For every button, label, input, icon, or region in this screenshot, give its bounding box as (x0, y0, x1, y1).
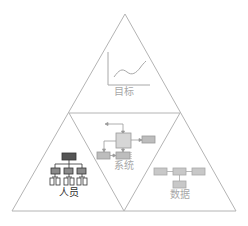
system-block-diagram-icon (97, 123, 155, 160)
section-label-middle: 系统 (114, 159, 134, 171)
data-flow-icon (154, 168, 205, 188)
section-label-left: 人员 (59, 187, 79, 198)
section-label-top: 目标 (114, 86, 134, 97)
section-label-right: 数据 (170, 188, 190, 200)
line-chart-icon (108, 52, 150, 85)
pyramid-diagram: 目标 系统 (0, 0, 248, 226)
org-chart-icon (50, 153, 87, 185)
